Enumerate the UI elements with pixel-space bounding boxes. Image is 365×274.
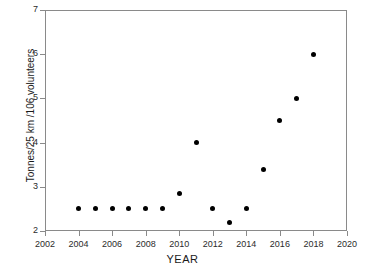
x-axis-tick [45,231,46,236]
data-point [194,140,199,145]
scatter-chart-figure: 234567 200220042006200820102012201420162… [0,0,365,274]
x-axis-tick [146,231,147,236]
x-axis-tick [246,231,247,236]
y-axis-tick [40,98,45,99]
x-axis-tick [213,231,214,236]
plot-area [45,10,347,231]
y-axis-tick [40,187,45,188]
x-axis-title: YEAR [0,253,365,265]
y-axis-tick [40,10,45,11]
data-point [177,191,182,196]
y-axis-tick-label: 2 [8,226,38,235]
x-axis-tick [280,231,281,236]
x-axis-tick-label: 2020 [327,239,365,249]
y-axis-tick [40,54,45,55]
data-point [311,52,316,57]
x-axis-tick [179,231,180,236]
y-axis-tick [40,143,45,144]
data-point [227,220,232,225]
x-axis-tick [313,231,314,236]
x-axis-tick [347,231,348,236]
x-axis-tick [112,231,113,236]
y-axis-title: Tonnes/25 km /106 volunteers [25,6,36,226]
data-point [261,167,266,172]
x-axis-tick [79,231,80,236]
